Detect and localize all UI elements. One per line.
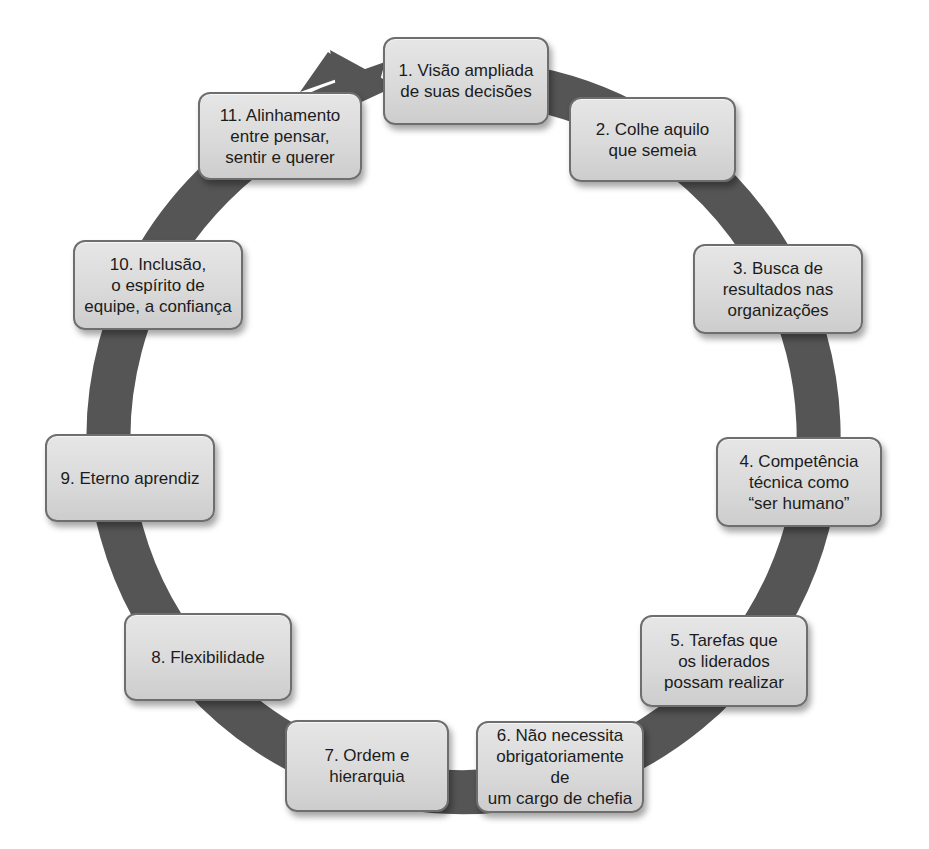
cycle-node-4: 4. Competência técnica como “ser humano” xyxy=(716,437,882,527)
cycle-node-8: 8. Flexibilidade xyxy=(124,613,292,701)
cycle-diagram: 1. Visão ampliada de suas decisões 2. Co… xyxy=(0,0,929,849)
cycle-node-9: 9. Eterno aprendiz xyxy=(45,434,215,522)
cycle-node-3: 3. Busca de resultados nas organizações xyxy=(693,244,863,334)
cycle-ring-arrow xyxy=(0,0,929,849)
cycle-node-2: 2. Colhe aquilo que semeia xyxy=(569,97,736,182)
cycle-node-5: 5. Tarefas que os liderados possam reali… xyxy=(640,615,808,707)
cycle-node-1: 1. Visão ampliada de suas decisões xyxy=(383,37,549,125)
cycle-node-6: 6. Não necessita obrigatoriamente de um … xyxy=(476,721,644,813)
cycle-node-7: 7. Ordem e hierarquia xyxy=(285,720,449,812)
cycle-node-10: 10. Inclusão, o espírito de equipe, a co… xyxy=(73,240,243,330)
cycle-node-11: 11. Alinhamento entre pensar, sentir e q… xyxy=(198,92,362,180)
